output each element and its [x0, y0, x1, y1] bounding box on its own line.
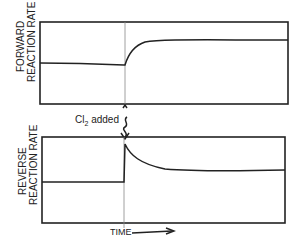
time-axis-label: TIME [110, 227, 132, 237]
bottom-chart-frame [42, 137, 285, 223]
bottom-ylabel: REVERSE REACTION RATE [17, 125, 39, 205]
squiggle-arrow-icon [124, 117, 127, 137]
forward-rate-curve [40, 40, 288, 65]
top-ylabel: FORWARD REACTION RATE [15, 2, 37, 82]
diagram-canvas [0, 0, 298, 247]
time-arrow-icon [132, 231, 172, 233]
cl2-added-label: Cl2 added [75, 114, 119, 127]
reverse-rate-curve [42, 144, 285, 182]
